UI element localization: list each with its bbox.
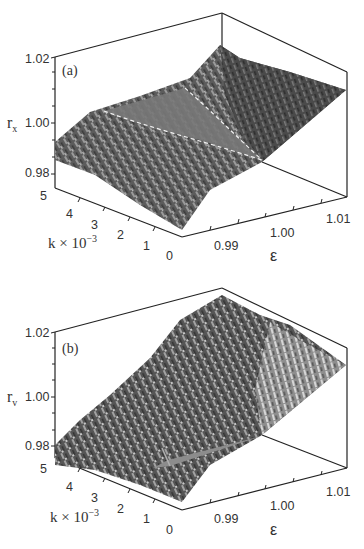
panel-label-a: (a)	[62, 64, 78, 78]
surface-a	[55, 45, 346, 230]
z-tick-label: 1.02	[25, 53, 49, 66]
e-tick-label: 1.00	[270, 227, 294, 240]
k-axis-title-b: k × 10−3	[50, 510, 99, 525]
surface-plot-a: (a) 1.02 1.00 0.98 rx 5 4 3 2 1 0 k × 10…	[0, 0, 364, 275]
k-tick-label: 5	[40, 463, 47, 476]
z-tick-label: 0.98	[25, 440, 49, 453]
plot-a-graphics	[0, 0, 364, 275]
panel-label-b: (b)	[62, 342, 78, 356]
e-tick-label: 1.01	[326, 486, 350, 499]
e-axis-title-a: ε	[270, 248, 277, 264]
k-tick-label: 4	[66, 208, 73, 221]
e-tick-label: 0.99	[214, 240, 238, 253]
e-ticks-a	[210, 199, 322, 230]
k-tick-label: 1	[143, 240, 150, 253]
z-tick-label: 1.00	[25, 117, 49, 130]
k-tick-label: 3	[91, 492, 98, 505]
surface-plot-b: (b) 1.02 1.00 0.98 rv 5 4 3 2 1 0 k × 10…	[0, 270, 364, 549]
k-tick-label: 2	[117, 503, 124, 516]
k-tick-label: 5	[40, 190, 47, 203]
k-tick-label: 4	[66, 481, 73, 494]
e-tick-label: 1.00	[270, 500, 294, 513]
plot-b-graphics	[0, 270, 364, 549]
e-axis-title-b: ε	[270, 522, 277, 538]
e-tick-label: 1.01	[326, 213, 350, 226]
k-tick-label: 0	[166, 524, 173, 537]
z-axis-title-b: rv	[7, 389, 17, 405]
k-tick-label: 2	[117, 229, 124, 242]
z-tick-label: 1.00	[25, 391, 49, 404]
e-tick-label: 0.99	[214, 513, 238, 526]
k-tick-label: 0	[166, 250, 173, 263]
k-axis-title-a: k × 10−3	[48, 236, 97, 251]
k-tick-label: 1	[143, 513, 150, 526]
z-tick-label: 1.02	[25, 327, 49, 340]
z-axis-title-a: rx	[7, 115, 17, 131]
k-tick-label: 3	[91, 219, 98, 232]
z-tick-label: 0.98	[25, 167, 49, 180]
